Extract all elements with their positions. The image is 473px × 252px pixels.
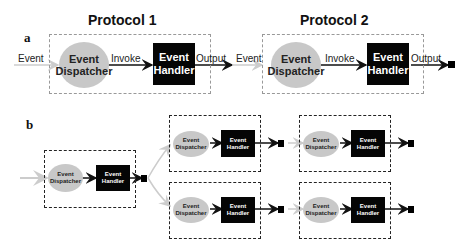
output-sink (408, 206, 414, 213)
event-handler: Event Handler (367, 43, 409, 85)
panel-a-label: a (24, 30, 31, 46)
event-handler: Event Handler (153, 43, 195, 85)
output-sink (448, 61, 455, 68)
event-handler: Event Handler (96, 165, 130, 191)
output-sink (278, 140, 284, 147)
event-dispatcher: Event Dispatcher (303, 131, 339, 157)
invoke-label: Invoke (325, 53, 354, 64)
event-dispatcher: Event Dispatcher (173, 131, 209, 157)
event-input-label: Event (18, 53, 44, 64)
event-dispatcher: Event Dispatcher (271, 42, 321, 88)
output-label: Output (196, 53, 226, 64)
output-sink (408, 140, 414, 147)
panel-b-label: b (26, 117, 33, 133)
protocol-2-title: Protocol 2 (300, 12, 368, 28)
event-handler: Event Handler (221, 197, 255, 223)
event-dispatcher: Event Dispatcher (59, 42, 109, 88)
event-handler: Event Handler (221, 130, 255, 157)
event-handler: Event Handler (351, 130, 385, 157)
event-dispatcher: Event Dispatcher (303, 197, 339, 223)
event-dispatcher: Event Dispatcher (48, 164, 83, 192)
invoke-label: Invoke (111, 53, 140, 64)
event-input-label: Event (236, 53, 262, 64)
event-handler: Event Handler (351, 197, 385, 223)
output-sink (141, 175, 147, 182)
protocol-1-title: Protocol 1 (88, 12, 156, 28)
output-sink (278, 206, 284, 213)
output-label: Output (411, 53, 441, 64)
event-dispatcher: Event Dispatcher (173, 197, 209, 223)
